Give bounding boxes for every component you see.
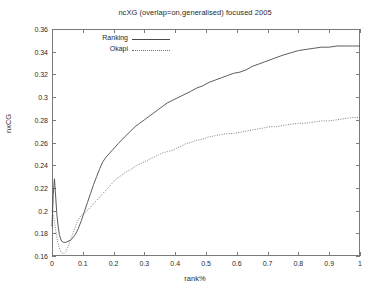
x-tick-label: 0.9 (324, 260, 334, 267)
legend-swatch-solid (132, 39, 170, 40)
y-tick-label: 0.28 (4, 116, 48, 123)
y-tick-label: 0.22 (4, 184, 48, 191)
x-tick-mark (360, 29, 361, 33)
x-axis-title: rank% (0, 274, 390, 283)
x-tick-label: 0.2 (109, 260, 119, 267)
plot-area: RankingOkapi (52, 29, 360, 256)
series-lines (52, 29, 360, 256)
y-tick-label: 0.36 (4, 26, 48, 33)
x-tick-label: 1 (358, 260, 362, 267)
series-line-okapi (52, 118, 360, 254)
x-tick-label: 0.5 (201, 260, 211, 267)
y-tick-label: 0.2 (4, 207, 48, 214)
legend-label: Ranking (102, 34, 128, 41)
series-line-ranking (52, 46, 360, 242)
x-tick-mark (360, 252, 361, 256)
y-tick-label: 0.18 (4, 230, 48, 237)
x-tick-label: 0.8 (294, 260, 304, 267)
y-tick-label: 0.32 (4, 71, 48, 78)
y-tick-label: 0.26 (4, 139, 48, 146)
legend-swatch-dotted (132, 50, 170, 51)
y-tick-label: 0.3 (4, 94, 48, 101)
x-tick-label: 0.4 (170, 260, 180, 267)
legend-label: Okapi (110, 45, 128, 52)
y-tick-mark (52, 256, 56, 257)
y-tick-label: 0.16 (4, 253, 48, 260)
chart-legend: RankingOkapi (62, 34, 170, 58)
chart-title: ncXG (overlap=on,generalised) focused 20… (0, 8, 390, 17)
y-tick-mark (356, 256, 360, 257)
x-tick-label: 0.3 (140, 260, 150, 267)
legend-item-ranking[interactable]: Ranking (62, 34, 170, 44)
x-tick-label: 0 (50, 260, 54, 267)
y-tick-label: 0.24 (4, 162, 48, 169)
x-tick-label: 0.7 (263, 260, 273, 267)
chart-screenshot: ncXG (overlap=on,generalised) focused 20… (0, 0, 390, 293)
x-tick-label: 0.6 (232, 260, 242, 267)
legend-item-okapi[interactable]: Okapi (62, 45, 170, 55)
y-tick-label: 0.34 (4, 48, 48, 55)
x-tick-label: 0.1 (78, 260, 88, 267)
